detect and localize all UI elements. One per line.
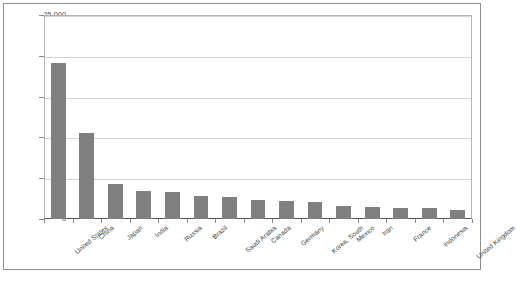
bar xyxy=(251,200,266,219)
x-axis-tick-label: Brazil xyxy=(211,224,228,240)
bar xyxy=(308,202,323,219)
x-axis-tick-label: Russia xyxy=(183,224,203,243)
bar-slot xyxy=(251,15,266,219)
bar-slot xyxy=(308,15,323,219)
bar xyxy=(365,207,380,219)
bar-slot xyxy=(165,15,180,219)
x-axis-tick-label: Indonesia xyxy=(442,224,469,248)
x-axis-tick-mark xyxy=(301,219,302,223)
x-axis-tick-label: Japan xyxy=(126,224,144,241)
x-axis-tick-mark xyxy=(158,219,159,223)
bar xyxy=(422,208,437,219)
x-axis-tick-label: India xyxy=(153,224,169,239)
bar xyxy=(336,206,351,219)
x-axis-tick-mark xyxy=(415,219,416,223)
bar-slot xyxy=(422,15,437,219)
x-axis-tick-label: France xyxy=(412,224,432,243)
bar xyxy=(51,63,66,219)
bar-slot xyxy=(79,15,94,219)
bar-slot xyxy=(194,15,209,219)
x-axis-tick-mark xyxy=(101,219,102,223)
x-axis-tick-mark xyxy=(358,219,359,223)
bar xyxy=(136,191,151,219)
x-axis-tick-label: United Kingdom xyxy=(475,224,516,260)
x-axis-tick-mark xyxy=(244,219,245,223)
bar xyxy=(194,196,209,219)
bar-series xyxy=(44,15,472,219)
bar-slot xyxy=(108,15,123,219)
bar xyxy=(279,201,294,219)
x-axis-tick-mark xyxy=(272,219,273,223)
x-axis-tick-label: Germany xyxy=(299,224,325,247)
x-axis-tick-mark xyxy=(130,219,131,223)
x-axis-tick-mark xyxy=(472,219,473,223)
x-axis-tick-label: Iran xyxy=(381,224,394,237)
bar-slot xyxy=(365,15,380,219)
x-axis-tick-mark xyxy=(73,219,74,223)
bar xyxy=(393,208,408,219)
x-axis-tick-mark xyxy=(386,219,387,223)
bar-slot xyxy=(336,15,351,219)
x-axis-tick-mark xyxy=(187,219,188,223)
bar xyxy=(108,184,123,219)
bar-slot xyxy=(393,15,408,219)
bar xyxy=(222,197,237,219)
bar-slot xyxy=(279,15,294,219)
bar xyxy=(450,210,465,219)
bar xyxy=(79,133,94,219)
bar xyxy=(165,192,180,219)
bar-slot xyxy=(136,15,151,219)
bar-slot xyxy=(450,15,465,219)
x-axis-tick-mark xyxy=(329,219,330,223)
bar-slot xyxy=(51,15,66,219)
x-axis-tick-mark xyxy=(44,219,45,223)
x-axis-tick-mark xyxy=(215,219,216,223)
bar-slot xyxy=(222,15,237,219)
x-axis-labels: United StatesChinaJapanIndiaRussiaBrazil… xyxy=(44,224,472,280)
x-axis-tick-mark xyxy=(443,219,444,223)
